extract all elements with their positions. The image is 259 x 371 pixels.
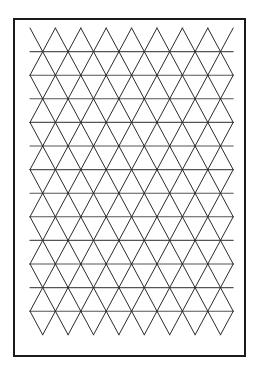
figure-root: [0, 0, 259, 371]
triangular-grid-figure: [0, 0, 259, 371]
